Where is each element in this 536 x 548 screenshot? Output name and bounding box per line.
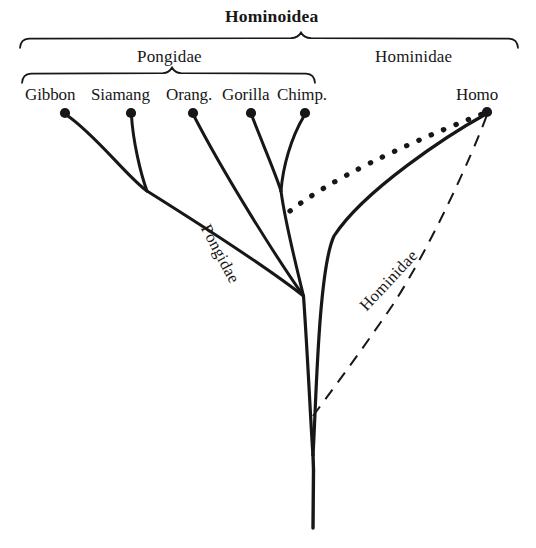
tree-branches-solid (67, 114, 487, 528)
tip-dot-homo (482, 107, 492, 117)
clade-label-hominoidea: Hominoidea (225, 8, 318, 26)
taxon-label-gibbon: Gibbon (25, 86, 75, 103)
clade-label-pongidae: Pongidae (137, 48, 202, 65)
branch-gorilla (252, 116, 281, 191)
phylogenetic-tree-figure: Hominoidea Pongidae Hominidae Gibbon Sia… (0, 0, 536, 548)
branch-orang (194, 116, 304, 296)
branch-hominidae-solid (313, 114, 486, 455)
taxon-label-siamang: Siamang (91, 86, 150, 103)
hominoidea-bracket (20, 33, 518, 49)
branch-gibbon (67, 115, 148, 191)
tip-dot-gorilla (246, 108, 256, 118)
taxon-label-orang: Orang. (166, 86, 212, 103)
branch-trunk (313, 455, 314, 528)
tip-dot-chimp (300, 108, 310, 118)
branch-chimp (281, 116, 304, 191)
tip-dot-orang (188, 108, 198, 118)
tip-dot-gibbon (60, 108, 70, 118)
taxon-label-chimp: Chimp. (277, 86, 327, 103)
pongidae-bracket (22, 68, 315, 84)
branch-hominidae-dotted (290, 113, 485, 211)
tip-dots (60, 107, 492, 118)
taxon-label-gorilla: Gorilla (222, 86, 269, 103)
tree-drawing (0, 0, 536, 548)
tip-dot-siamang (126, 108, 136, 118)
branch-pongidae-stem (304, 296, 314, 455)
clade-label-hominidae: Hominidae (375, 48, 452, 65)
taxon-label-homo: Homo (456, 86, 498, 103)
